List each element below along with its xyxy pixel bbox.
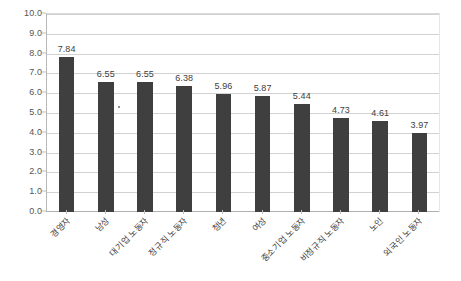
x-tick-label: 정규직 노동자 — [146, 214, 190, 258]
x-tick-mark — [262, 210, 263, 214]
bar-value-label: 5.44 — [293, 91, 311, 101]
y-tick-label: 7.0 — [0, 67, 42, 77]
bar-group[interactable] — [412, 14, 428, 212]
bar-group[interactable] — [98, 14, 114, 212]
bar-group[interactable] — [216, 14, 232, 212]
x-tick-mark — [66, 210, 67, 214]
y-tick-label: 6.0 — [0, 87, 42, 97]
bar-group[interactable] — [176, 14, 192, 212]
bar[interactable] — [333, 118, 349, 212]
plot-area: 7.846.556.556.385.965.875.444.734.613.97 — [46, 13, 440, 212]
y-tick-label: 5.0 — [0, 107, 42, 117]
bar-value-label: 4.61 — [371, 108, 389, 118]
x-tick-label: 남성 — [91, 214, 111, 234]
bar-value-label: 6.55 — [136, 69, 154, 79]
y-tick-label: 8.0 — [0, 48, 42, 58]
y-tick-label: 9.0 — [0, 28, 42, 38]
bar-value-label: 3.97 — [410, 120, 428, 130]
x-tick-mark — [301, 210, 302, 214]
bar[interactable] — [137, 82, 153, 212]
bar-value-label: 6.38 — [175, 73, 193, 83]
bar-value-label: 4.73 — [332, 105, 350, 115]
x-tick-mark — [105, 210, 106, 214]
x-tick-label: 여성 — [248, 214, 268, 234]
y-tick-label: 10.0 — [0, 8, 42, 18]
y-tick-label: 1.0 — [0, 186, 42, 196]
scan-artifact — [118, 106, 120, 108]
x-tick-label: 대기업 노동자 — [106, 214, 150, 258]
y-axis: 0.01.02.03.04.05.06.07.08.09.010.0 — [0, 13, 42, 212]
x-tick-label: 청년 — [209, 214, 229, 234]
bar[interactable] — [294, 104, 310, 212]
bar-value-label: 5.96 — [214, 81, 232, 91]
x-tick-label: 경영자 — [47, 214, 72, 239]
y-tick-label: 3.0 — [0, 147, 42, 157]
x-tick-mark — [144, 210, 145, 214]
x-tick-mark — [418, 210, 419, 214]
bar[interactable] — [255, 96, 271, 212]
bar-chart: 0.01.02.03.04.05.06.07.08.09.010.0 7.846… — [0, 0, 461, 281]
x-tick-mark — [222, 210, 223, 214]
y-tick-label: 4.0 — [0, 127, 42, 137]
x-axis: 경영자남성대기업 노동자정규직 노동자청년여성중소기업 노동자비정규직 노동자노… — [46, 214, 440, 281]
y-tick-label: 2.0 — [0, 166, 42, 176]
bar-value-label: 5.87 — [254, 83, 272, 93]
bar[interactable] — [216, 94, 232, 212]
bar[interactable] — [412, 133, 428, 212]
x-tick-mark — [340, 210, 341, 214]
bar[interactable] — [372, 121, 388, 212]
x-tick-label: 노인 — [366, 214, 386, 234]
x-tick-label: 외국인 노동자 — [381, 214, 425, 258]
x-tick-mark — [183, 210, 184, 214]
bar[interactable] — [98, 82, 114, 212]
bar-group[interactable] — [255, 14, 271, 212]
x-tick-mark — [379, 210, 380, 214]
bar[interactable] — [59, 57, 75, 212]
bar-group[interactable] — [294, 14, 310, 212]
y-tick-label: 0.0 — [0, 206, 42, 216]
bar[interactable] — [176, 86, 192, 212]
bar-value-label: 6.55 — [97, 69, 115, 79]
bar-value-label: 7.84 — [58, 44, 76, 54]
bar-group[interactable] — [137, 14, 153, 212]
